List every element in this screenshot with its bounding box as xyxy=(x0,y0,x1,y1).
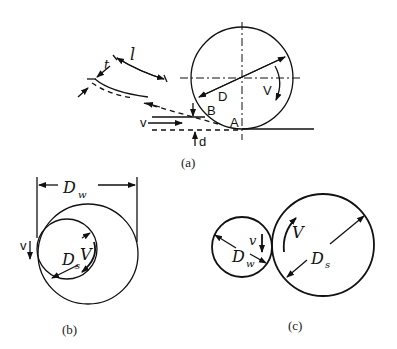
chip-direction-arrow xyxy=(146,103,160,107)
figure-c: D w v V D s (c) xyxy=(212,194,374,333)
caption-c: (c) xyxy=(288,318,302,333)
label-Dw: D xyxy=(62,178,76,197)
figure-b: D w v D s V (b) xyxy=(20,177,138,337)
label-Dw: D xyxy=(231,247,245,266)
label-V: V xyxy=(263,83,272,98)
length-tick-left xyxy=(113,55,117,60)
label-V: V xyxy=(292,223,305,242)
length-arrow xyxy=(117,58,164,79)
chip-top-curve xyxy=(95,79,148,97)
length-tick-right xyxy=(164,75,167,82)
label-Ds: D xyxy=(310,249,324,268)
label-v: v xyxy=(140,115,147,130)
label-Dw-sub: w xyxy=(246,258,255,269)
chip-bottom-curve xyxy=(92,83,134,98)
label-D: D xyxy=(218,89,227,104)
label-d: d xyxy=(199,134,206,149)
label-B: B xyxy=(207,103,216,118)
length-arrow-back xyxy=(117,58,164,79)
ds-arrow-upper xyxy=(330,216,364,244)
figure-a: D V v d B A t l (a xyxy=(78,22,314,170)
label-A: A xyxy=(230,115,239,130)
label-v: v xyxy=(20,238,27,253)
thickness-arrow-bottom xyxy=(78,88,88,97)
grinding-diagram: D V v d B A t l (a xyxy=(0,0,397,349)
label-l: l xyxy=(130,45,135,64)
rotation-arrow xyxy=(275,66,280,100)
label-Dw-sub: w xyxy=(78,189,87,200)
ds-arrow-lower xyxy=(287,260,307,277)
wheel-circle xyxy=(272,194,374,296)
ds-arrow-upper xyxy=(82,233,90,238)
label-v: v xyxy=(249,233,257,248)
caption-a: (a) xyxy=(181,155,195,170)
label-Ds-sub: s xyxy=(325,259,330,270)
caption-b: (b) xyxy=(62,322,77,337)
label-t: t xyxy=(104,57,110,72)
label-Ds: D xyxy=(61,250,75,269)
